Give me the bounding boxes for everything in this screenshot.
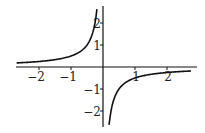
curve-left-branch bbox=[17, 9, 97, 63]
hyperbola-plot: −2−11221−1−2 bbox=[0, 0, 205, 133]
y-tick-label: −2 bbox=[83, 105, 101, 119]
x-tick-label: −2 bbox=[27, 70, 45, 84]
axes bbox=[16, 6, 197, 127]
tick-labels: −2−11221−1−2 bbox=[27, 17, 172, 119]
y-tick-label: −1 bbox=[83, 83, 101, 97]
curve-right-branch bbox=[109, 71, 191, 125]
x-tick-label: −1 bbox=[59, 70, 77, 84]
y-tick-label: 1 bbox=[93, 39, 101, 53]
